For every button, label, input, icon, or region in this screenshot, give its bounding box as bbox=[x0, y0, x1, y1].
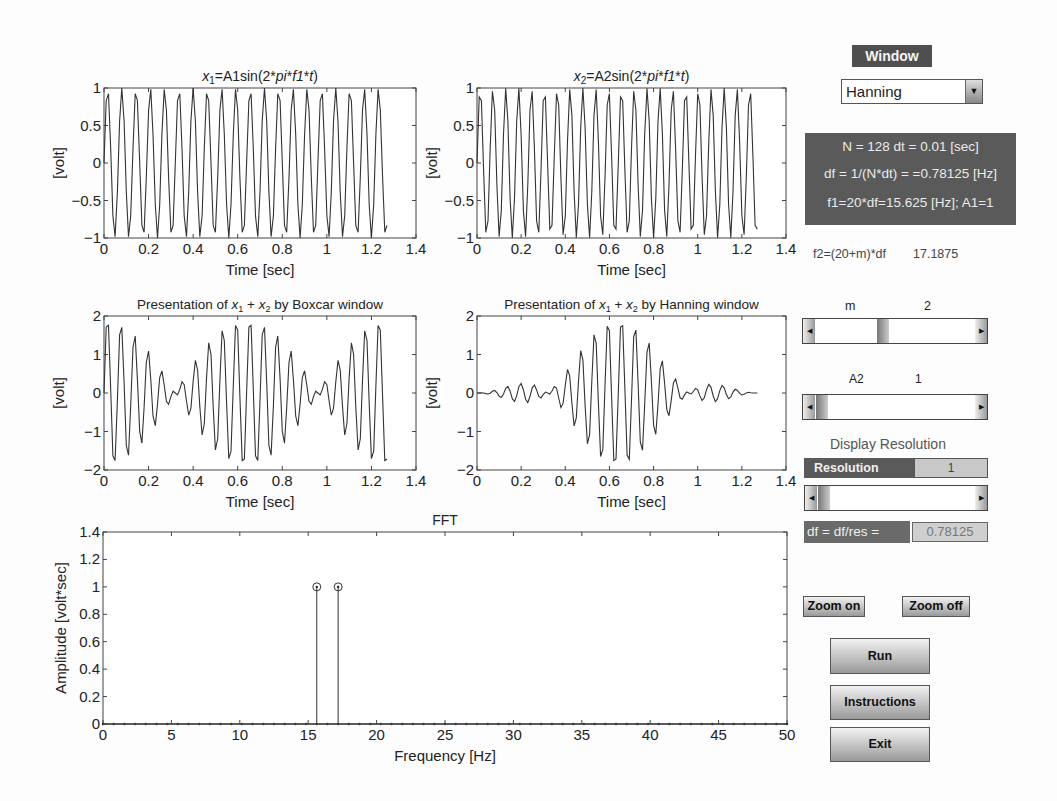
svg-text:0.6: 0.6 bbox=[79, 633, 100, 650]
slider-left-arrow-icon[interactable]: ◀ bbox=[803, 319, 815, 343]
svg-text:1: 1 bbox=[92, 578, 100, 595]
slider-right-arrow-icon[interactable]: ▶ bbox=[975, 395, 987, 419]
svg-text:−2: −2 bbox=[84, 461, 101, 478]
svg-text:0: 0 bbox=[100, 240, 108, 257]
window-select-value: Hanning bbox=[846, 83, 902, 100]
svg-text:Time [sec]: Time [sec] bbox=[226, 261, 295, 278]
svg-text:0.6: 0.6 bbox=[227, 240, 248, 257]
svg-text:Time [sec]: Time [sec] bbox=[597, 493, 666, 510]
hanning-sum-plot: 00.20.40.60.811.21.4−2−1012Time [sec][vo… bbox=[423, 297, 796, 510]
svg-text:50: 50 bbox=[779, 726, 796, 743]
svg-text:1: 1 bbox=[466, 346, 474, 363]
run-button[interactable]: Run bbox=[830, 638, 930, 674]
svg-text:1: 1 bbox=[694, 240, 702, 257]
svg-text:Presentation of x1 + x2 by Han: Presentation of x1 + x2 by Hanning windo… bbox=[504, 297, 759, 314]
boxcar-sum-plot: 00.20.40.60.811.21.4−2−1012Time [sec][vo… bbox=[50, 297, 426, 510]
svg-text:0.8: 0.8 bbox=[272, 472, 293, 489]
svg-text:0.2: 0.2 bbox=[511, 472, 532, 489]
resolution-label: Resolution bbox=[804, 458, 914, 478]
svg-text:1.2: 1.2 bbox=[361, 240, 382, 257]
svg-text:[volt]: [volt] bbox=[423, 377, 440, 409]
resolution-slider[interactable]: ◀ ▶ bbox=[804, 485, 988, 511]
svg-text:Frequency [Hz]: Frequency [Hz] bbox=[394, 747, 496, 764]
instructions-button[interactable]: Instructions bbox=[830, 685, 930, 720]
svg-text:1.2: 1.2 bbox=[361, 472, 382, 489]
resolution-row: Resolution 1 bbox=[804, 458, 988, 478]
slider-right-arrow-icon[interactable]: ▶ bbox=[975, 319, 987, 343]
f2-label: f2=(20+m)*df bbox=[813, 247, 886, 261]
window-select[interactable]: Hanning ▼ bbox=[841, 79, 983, 104]
svg-text:1.4: 1.4 bbox=[406, 240, 427, 257]
zoom-off-button[interactable]: Zoom off bbox=[902, 596, 970, 617]
svg-text:Time [sec]: Time [sec] bbox=[597, 261, 666, 278]
a2-slider[interactable]: ◀ ▶ bbox=[802, 394, 988, 420]
svg-text:0.2: 0.2 bbox=[511, 240, 532, 257]
svg-text:0.5: 0.5 bbox=[453, 117, 474, 134]
m-value: 2 bbox=[924, 299, 931, 313]
info-line-f1: f1=20*df=15.625 [Hz]; A1=1 bbox=[805, 195, 1016, 210]
chevron-down-icon[interactable]: ▼ bbox=[965, 80, 982, 103]
svg-text:0.2: 0.2 bbox=[79, 688, 100, 705]
svg-text:FFT: FFT bbox=[432, 512, 458, 528]
svg-text:1.4: 1.4 bbox=[776, 240, 797, 257]
svg-text:[volt]: [volt] bbox=[423, 147, 440, 179]
svg-text:0.8: 0.8 bbox=[272, 240, 293, 257]
svg-text:0.2: 0.2 bbox=[138, 240, 159, 257]
info-line-n-dt: N = 128 dt = 0.01 [sec] bbox=[805, 139, 1016, 154]
info-line-df: df = 1/(N*dt) = =0.78125 [Hz] bbox=[805, 166, 1016, 181]
slider-left-arrow-icon[interactable]: ◀ bbox=[805, 486, 817, 510]
svg-text:1: 1 bbox=[694, 472, 702, 489]
svg-text:0.4: 0.4 bbox=[555, 240, 576, 257]
svg-text:0.6: 0.6 bbox=[227, 472, 248, 489]
svg-text:−1: −1 bbox=[457, 423, 474, 440]
svg-text:0.8: 0.8 bbox=[643, 240, 664, 257]
svg-text:0: 0 bbox=[93, 154, 101, 171]
slider-right-arrow-icon[interactable]: ▶ bbox=[975, 486, 987, 510]
svg-text:0: 0 bbox=[99, 726, 107, 743]
svg-text:0: 0 bbox=[466, 384, 474, 401]
window-label: Window bbox=[852, 45, 932, 67]
svg-text:−2: −2 bbox=[457, 461, 474, 478]
svg-text:Amplitude [volt*sec]: Amplitude [volt*sec] bbox=[52, 562, 69, 694]
svg-text:1: 1 bbox=[93, 79, 101, 96]
resolution-slider-thumb[interactable] bbox=[818, 486, 830, 510]
exit-button[interactable]: Exit bbox=[830, 727, 930, 762]
svg-text:0.4: 0.4 bbox=[183, 240, 204, 257]
a2-slider-thumb[interactable] bbox=[816, 395, 828, 419]
svg-text:−1: −1 bbox=[84, 229, 101, 246]
svg-text:1.2: 1.2 bbox=[79, 550, 100, 567]
m-slider-thumb[interactable] bbox=[877, 319, 889, 343]
plots-area: 00.20.40.60.811.21.4−1−0.500.51Time [sec… bbox=[0, 0, 800, 801]
svg-text:Presentation of x1 + x2 by Box: Presentation of x1 + x2 by Boxcar window bbox=[137, 297, 383, 314]
svg-text:1: 1 bbox=[323, 472, 331, 489]
svg-text:0.6: 0.6 bbox=[599, 240, 620, 257]
a2-label: A2 bbox=[849, 372, 864, 386]
parameters-info-panel: N = 128 dt = 0.01 [sec] df = 1/(N*dt) = … bbox=[805, 133, 1016, 225]
svg-text:−0.5: −0.5 bbox=[71, 192, 101, 209]
svg-text:1.2: 1.2 bbox=[731, 472, 752, 489]
svg-text:x1=A1sin(2*pi*f1*t): x1=A1sin(2*pi*f1*t) bbox=[201, 68, 318, 86]
m-slider[interactable]: ◀ ▶ bbox=[802, 318, 988, 344]
svg-text:5: 5 bbox=[167, 726, 175, 743]
display-resolution-title: Display Resolution bbox=[830, 436, 946, 452]
svg-text:−1: −1 bbox=[457, 229, 474, 246]
df-res-label: df = df/res = bbox=[804, 521, 910, 543]
a2-value: 1 bbox=[915, 372, 922, 386]
svg-text:0.2: 0.2 bbox=[138, 472, 159, 489]
svg-text:45: 45 bbox=[710, 726, 727, 743]
svg-text:Time [sec]: Time [sec] bbox=[226, 493, 295, 510]
slider-left-arrow-icon[interactable]: ◀ bbox=[803, 395, 815, 419]
svg-text:1: 1 bbox=[93, 346, 101, 363]
svg-text:1.4: 1.4 bbox=[776, 472, 797, 489]
svg-text:0: 0 bbox=[466, 154, 474, 171]
svg-text:0.4: 0.4 bbox=[183, 472, 204, 489]
svg-text:1.4: 1.4 bbox=[406, 472, 427, 489]
resolution-value: 1 bbox=[914, 458, 988, 478]
zoom-on-button[interactable]: Zoom on bbox=[803, 596, 865, 617]
svg-text:0: 0 bbox=[92, 715, 100, 732]
svg-text:2: 2 bbox=[466, 307, 474, 324]
svg-text:0: 0 bbox=[473, 472, 481, 489]
df-res-value: 0.78125 bbox=[912, 522, 988, 542]
svg-text:40: 40 bbox=[642, 726, 659, 743]
svg-text:20: 20 bbox=[368, 726, 385, 743]
